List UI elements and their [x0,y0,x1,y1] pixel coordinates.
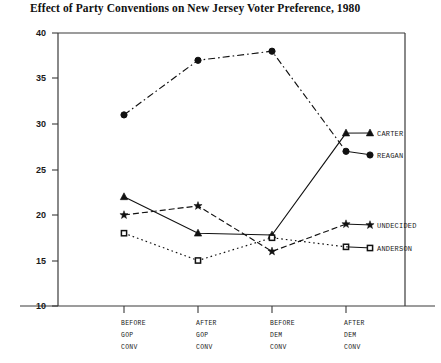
series-line-reagan [124,51,346,151]
x-label-3-line3: CONV [344,344,361,351]
chart-plot-area: 40 35 30 25 20 15 10 BEFORE GOP CONV AFT… [0,0,441,363]
y-axis-ticks [52,33,58,306]
data-point-carter-1 [194,229,201,236]
series-anderson [121,231,348,264]
data-point-undecided-2 [268,247,276,255]
data-point-reagan-0 [121,112,127,118]
y-label-20: 20 [36,210,46,220]
legend-label-undecided: UNDECIDED [377,222,417,230]
y-label-15: 15 [36,256,46,266]
x-label-3-line2: DEM [344,332,356,339]
data-series-layer [120,48,374,263]
x-label-2-line3: CONV [270,344,287,351]
x-label-0-line1: BEFORE [121,320,146,327]
x-label-1-line1: AFTER [196,320,217,327]
legend-marker-carter [366,129,373,136]
x-label-2-line1: BEFORE [270,320,295,327]
series-undecided [120,202,350,255]
chart-legend: CARTER REAGAN UNDECIDED ANDERSON [377,130,417,253]
series-carter [120,129,349,238]
data-point-anderson-0 [121,231,126,236]
series-line-anderson [124,233,346,260]
x-axis-labels: BEFORE GOP CONV AFTER GOP CONV BEFORE DE… [121,320,365,351]
series-reagan [121,48,349,154]
series-line-carter [124,133,346,235]
chart-container: Effect of Party Conventions on New Jerse… [0,0,441,363]
data-point-reagan-1 [195,57,201,63]
data-point-carter-0 [120,193,127,200]
y-axis-labels: 40 35 30 25 20 15 10 [36,28,46,311]
y-label-25: 25 [36,165,46,175]
y-label-10: 10 [36,301,46,311]
axis-frame [20,33,435,306]
x-label-1-line2: GOP [196,332,208,339]
x-label-1-line3: CONV [196,344,213,351]
x-label-0-line2: GOP [121,332,133,339]
data-point-carter-3 [342,129,349,136]
data-point-undecided-1 [194,202,202,210]
y-label-35: 35 [36,73,46,83]
legend-label-reagan: REAGAN [377,152,403,160]
y-label-30: 30 [36,119,46,129]
x-label-2-line2: DEM [270,332,282,339]
data-point-anderson-1 [195,258,200,263]
x-label-0-line3: CONV [121,344,138,351]
data-point-undecided-3 [342,220,350,228]
data-point-undecided-0 [120,211,128,219]
data-point-anderson-2 [269,235,274,240]
legend-marker-anderson [367,245,372,250]
x-axis-ticks [124,306,346,313]
x-label-3-line1: AFTER [344,320,365,327]
y-label-40: 40 [36,28,46,38]
legend-label-carter: CARTER [377,130,404,138]
legend-marker-undecided [366,221,374,229]
legend-label-anderson: ANDERSON [377,245,412,253]
data-point-reagan-2 [269,48,275,54]
legend-marker-reagan [367,152,373,158]
